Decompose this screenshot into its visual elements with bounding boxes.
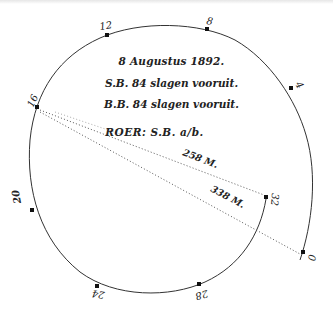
caption-date: 8 Augustus 1892. — [5, 55, 333, 67]
caption-starboard-engine: S.B. 84 slagen vooruit. — [5, 77, 333, 89]
marker-20 — [30, 208, 34, 212]
label-point-8: 8 — [206, 15, 214, 27]
label-point-0: 0 — [306, 254, 318, 263]
distance-label-258: 258 M. — [180, 146, 219, 170]
marker-24 — [95, 284, 99, 288]
marker-28 — [197, 282, 201, 286]
label-point-24: 24 — [91, 288, 106, 301]
caption-rudder: ROER: S.B. a/b. — [0, 126, 321, 138]
marker-12 — [105, 33, 109, 37]
marker-32 — [264, 195, 268, 199]
distance-label-338: 338 M. — [209, 183, 247, 210]
marker-0 — [301, 250, 305, 254]
label-point-28: 28 — [194, 288, 210, 302]
distance-line-258 — [40, 110, 264, 195]
label-point-20: 20 — [10, 189, 23, 206]
label-point-32: 32 — [269, 193, 281, 207]
marker-8 — [205, 27, 209, 31]
turning-circle-diagram: 0 4 8 12 16 20 24 28 32 258 M. 338 M. — [0, 0, 333, 314]
caption-port-engine: B.B. 84 slagen vooruit. — [5, 98, 333, 110]
label-point-12: 12 — [99, 19, 113, 32]
